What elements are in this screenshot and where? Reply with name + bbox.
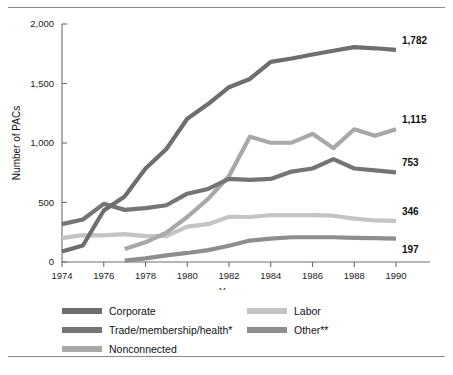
top-divider-rule — [8, 7, 445, 8]
end-value-label: 1,115 — [402, 114, 427, 125]
legend-item-labor[interactable]: Labor — [247, 303, 397, 319]
x-tick-label: 1990 — [385, 270, 406, 281]
legend-label-nonconnected: Nonconnected — [109, 344, 177, 355]
legend-label-other: Other** — [294, 325, 328, 336]
x-tick-label: 1976 — [93, 270, 114, 281]
legend-item-trade-membership-health[interactable]: Trade/membership/health* — [62, 322, 247, 338]
y-tick-label: 0 — [49, 256, 54, 267]
x-tick-label: 1988 — [344, 270, 365, 281]
legend-item-corporate[interactable]: Corporate — [62, 303, 247, 319]
y-axis-title: Number of PACs — [11, 106, 22, 180]
legend-label-trade-membership-health: Trade/membership/health* — [109, 325, 232, 336]
end-value-label: 197 — [402, 244, 419, 255]
series-line-labor — [62, 215, 396, 238]
legend-swatch-labor — [247, 308, 287, 314]
line-chart: 05001,0001,5002,000197419761978198019821… — [0, 12, 453, 290]
y-tick-label: 1,000 — [30, 137, 54, 148]
y-tick-label: 1,500 — [30, 78, 54, 89]
end-value-label: 1,782 — [402, 35, 427, 46]
y-tick-label: 2,000 — [30, 18, 54, 29]
x-tick-label: 1974 — [51, 270, 72, 281]
legend-label-corporate: Corporate — [109, 306, 156, 317]
legend-swatch-trade-membership-health — [62, 327, 102, 333]
legend-column-right: LaborOther** — [247, 303, 397, 357]
figure-frame: 05001,0001,5002,000197419761978198019821… — [0, 0, 453, 375]
x-tick-label: 1980 — [177, 270, 198, 281]
x-tick-label: 1986 — [302, 270, 323, 281]
legend-label-labor: Labor — [294, 306, 321, 317]
end-value-label: 346 — [402, 206, 419, 217]
series-line-trade-membership-health — [62, 159, 396, 224]
legend-swatch-corporate — [62, 308, 102, 314]
legend-item-other[interactable]: Other** — [247, 322, 397, 338]
x-axis-title: Year — [219, 287, 240, 290]
legend-swatch-nonconnected — [62, 346, 102, 352]
legend-column-left: CorporateTrade/membership/health*Nonconn… — [62, 303, 247, 357]
x-tick-label: 1984 — [260, 270, 281, 281]
legend-swatch-other — [247, 327, 287, 333]
series-line-corporate — [62, 47, 396, 251]
x-tick-label: 1978 — [135, 270, 156, 281]
y-tick-label: 500 — [38, 197, 54, 208]
chart-legend: CorporateTrade/membership/health*Nonconn… — [62, 303, 402, 357]
x-tick-label: 1982 — [218, 270, 239, 281]
chart-svg: 05001,0001,5002,000197419761978198019821… — [0, 12, 453, 290]
legend-item-nonconnected[interactable]: Nonconnected — [62, 341, 247, 357]
end-value-label: 753 — [402, 157, 419, 168]
series-line-other — [125, 237, 396, 260]
